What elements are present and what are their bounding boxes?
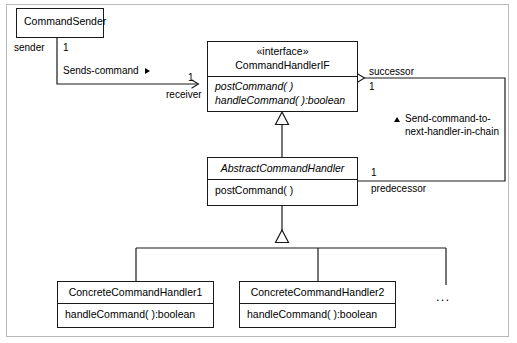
direction-marker-icon [145, 68, 150, 74]
multiplicity-sender: 1 [63, 42, 69, 54]
class-name-concrete-command-handler-2: ConcreteCommandHandler2 [240, 282, 395, 303]
class-box-abstract-command-handler[interactable]: AbstractCommandHandler postCommand( ) [207, 157, 358, 206]
class-box-command-sender[interactable]: CommandSender [16, 8, 104, 38]
class-name-abstract-command-handler: AbstractCommandHandler [208, 158, 357, 179]
role-label-receiver: receiver [166, 89, 202, 101]
uml-diagram-canvas: CommandSender «interface» CommandHandler… [0, 0, 517, 343]
operation-handle-command: handleCommand( ):boolean [215, 94, 350, 108]
connector-realization-abstract-to-interface [276, 112, 289, 157]
class-name-command-handler-if: CommandHandlerIF [214, 59, 351, 73]
class-box-command-handler-if[interactable]: «interface» CommandHandlerIF postCommand… [207, 41, 358, 112]
class-name-concrete-command-handler-1: ConcreteCommandHandler1 [58, 282, 213, 303]
operations-abstract-command-handler: postCommand( ) [208, 179, 357, 201]
operations-command-handler-if: postCommand( ) handleCommand( ):boolean [208, 76, 357, 110]
class-box-concrete-command-handler-1[interactable]: ConcreteCommandHandler1 handleCommand( )… [57, 281, 214, 328]
class-name-command-sender: CommandSender [17, 9, 103, 32]
note-direction-marker-icon [394, 117, 400, 122]
role-label-successor: successor [369, 66, 414, 78]
association-name-sends-command: Sends-command [63, 65, 139, 77]
more-handlers-ellipsis: ... [436, 290, 450, 303]
multiplicity-receiver: 1 [188, 72, 194, 84]
role-label-sender: sender [14, 42, 45, 54]
multiplicity-predecessor: 1 [371, 167, 377, 179]
chain-note-line-1: Send-command-to- [405, 113, 491, 126]
stereotype-interface: «interface» [214, 45, 351, 59]
operation-handle-command: handleCommand( ):boolean [247, 308, 388, 322]
connector-generalization-bus [136, 206, 446, 285]
operations-concrete-command-handler-1: handleCommand( ):boolean [58, 303, 213, 325]
chain-note-line-2: next-handler-in-chain [405, 126, 499, 139]
role-label-predecessor: predecessor [371, 183, 426, 195]
connector-sends-command [57, 38, 198, 84]
operation-post-command: postCommand( ) [215, 184, 350, 198]
operations-concrete-command-handler-2: handleCommand( ):boolean [240, 303, 395, 325]
operation-handle-command: handleCommand( ):boolean [65, 308, 206, 322]
operation-post-command: postCommand( ) [215, 80, 350, 94]
class-box-concrete-command-handler-2[interactable]: ConcreteCommandHandler2 handleCommand( )… [239, 281, 396, 328]
multiplicity-successor: 1 [369, 81, 375, 93]
